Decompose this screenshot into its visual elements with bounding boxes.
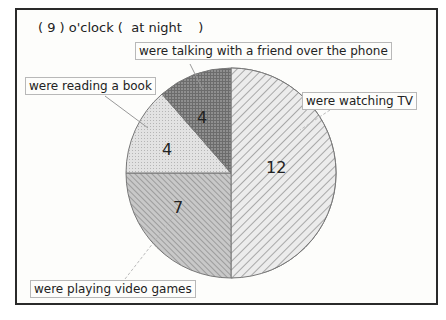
label-talking-phone: were talking with a friend over the phon… bbox=[135, 42, 392, 60]
slice-playing-video-games bbox=[126, 173, 231, 278]
value-talking-phone: 4 bbox=[197, 108, 207, 127]
value-watching-tv: 12 bbox=[266, 158, 286, 177]
label-watching-tv: were watching TV bbox=[302, 92, 417, 110]
label-playing-video-games: were playing video games bbox=[30, 280, 196, 298]
label-reading-book: were reading a book bbox=[25, 77, 156, 95]
value-playing-video-games: 7 bbox=[173, 198, 183, 217]
leader-line-book bbox=[105, 96, 148, 128]
value-reading-book: 4 bbox=[162, 140, 172, 159]
